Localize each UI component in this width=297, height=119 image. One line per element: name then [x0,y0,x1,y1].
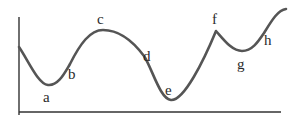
point-label-f: f [212,11,217,27]
point-label-e: e [165,82,172,98]
diagram-canvas: a b c d e f g h [0,0,297,119]
point-label-b: b [68,66,76,82]
point-label-g: g [237,56,245,72]
point-label-c: c [97,11,104,27]
point-label-h: h [264,32,272,48]
function-curve [19,9,286,100]
curve-diagram: a b c d e f g h [0,0,297,119]
point-label-a: a [43,89,50,105]
point-label-d: d [143,48,151,64]
